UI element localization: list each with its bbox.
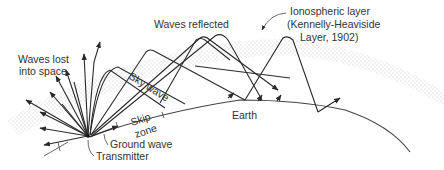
label-earth: Earth [232, 109, 257, 121]
transmitter-icon [86, 134, 90, 138]
label-transmitter: Transmitter [96, 150, 149, 162]
ionosphere-propagation-diagram: Waves reflected Ionospheric layer (Kenne… [0, 0, 444, 170]
label-ground-wave: Ground wave [110, 138, 173, 150]
label-waves-reflected: Waves reflected [154, 18, 229, 30]
label-ionospheric-layer-2: (Kennelly-Heaviside [287, 18, 381, 30]
label-waves-lost-1: Waves lost [18, 53, 69, 65]
label-ionospheric-layer-3: Layer, 1902) [300, 31, 358, 43]
transmitter-leader [88, 140, 94, 156]
ionosphere-leader [262, 13, 286, 30]
label-ionospheric-layer-1: Ionospheric layer [290, 5, 370, 17]
ionospheric-layer-band [8, 39, 444, 136]
label-waves-lost-2: into space [19, 65, 67, 77]
ground-wave-leader [104, 134, 108, 145]
